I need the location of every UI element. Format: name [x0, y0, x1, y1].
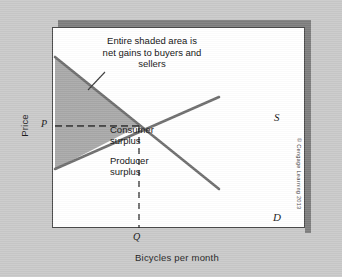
shaded-area-annotation: Entire shaded area is net gains to buyer… — [86, 35, 218, 70]
producer-surplus-label: Producer surplus — [110, 156, 149, 177]
x-axis-title: Bicycles per month — [117, 252, 237, 263]
supply-curve-label: S — [274, 111, 280, 123]
annotation-leader-line — [88, 72, 105, 90]
annotation-line-2: net gains to buyers and — [86, 47, 218, 59]
quantity-axis-tick-label: Q — [133, 231, 140, 242]
figure-shadow-top — [58, 20, 311, 27]
consumer-surplus-label: Consumer surplus — [110, 125, 154, 146]
price-axis-tick-label: P — [41, 118, 47, 129]
demand-curve-label: D — [273, 211, 281, 223]
annotation-line-1: Entire shaded area is — [86, 35, 218, 47]
supply-demand-figure: Consumer surplus Producer surplus S D En… — [0, 0, 342, 277]
annotation-line-3: sellers — [86, 58, 218, 70]
y-axis-title: Price — [19, 96, 30, 156]
copyright-credit: © Cengage Learning 2013 — [296, 138, 302, 234]
